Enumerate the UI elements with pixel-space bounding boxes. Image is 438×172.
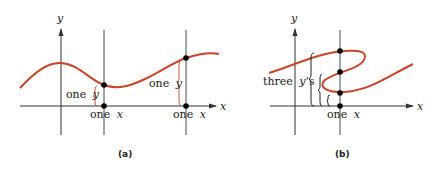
- brace-y2: [318, 74, 322, 106]
- point-curve-b1: [337, 48, 343, 54]
- point-curve-a1: [101, 82, 107, 88]
- caption-b: (b): [335, 149, 350, 159]
- point-curve-a2: [183, 55, 189, 61]
- label-one-x-right: one x: [173, 108, 207, 121]
- panel-a: y x one y one y one x one x: [20, 12, 227, 159]
- label-one-x-left: one x: [90, 108, 124, 121]
- panel-b: y x three y’s one x (b): [263, 12, 424, 159]
- function-curve-a: [20, 53, 219, 88]
- label-three-ys: three y’s: [263, 75, 315, 88]
- label-one-x-b: one x: [327, 108, 361, 121]
- y-axis-label-a: y: [56, 12, 64, 25]
- brace-y3: [327, 95, 330, 106]
- y-axis-label-b: y: [290, 12, 298, 25]
- point-curve-b2: [337, 69, 343, 75]
- function-vertical-line-test-diagram: y x one y one y one x one x: [0, 0, 438, 172]
- x-axis-label-b: x: [417, 100, 424, 113]
- x-axis-label-a: x: [220, 100, 227, 113]
- label-one-y-right: one y: [149, 77, 183, 90]
- label-one-y-left: one y: [66, 88, 100, 101]
- caption-a: (a): [118, 149, 132, 159]
- point-curve-b3: [337, 90, 343, 96]
